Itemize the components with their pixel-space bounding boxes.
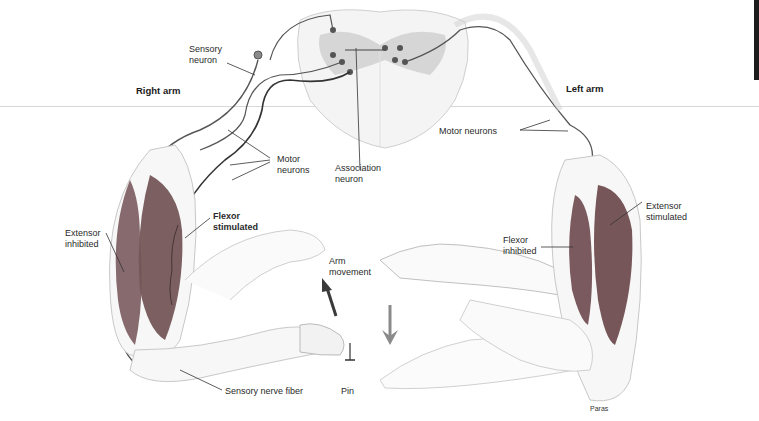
- label-line: Motor: [277, 154, 310, 165]
- flexor-inhibited-label: Flexor inhibited: [503, 235, 537, 257]
- motor-neurons-right-label: Motor neurons: [277, 154, 310, 176]
- flexor-stimulated-label: Flexor stimulated: [213, 211, 258, 233]
- right-arm-title: Right arm: [136, 85, 180, 96]
- label-line: movement: [329, 267, 371, 278]
- label-line: Flexor: [503, 235, 537, 246]
- label-line: Sensory: [189, 44, 222, 55]
- label-line: neuron: [189, 55, 222, 66]
- label-line: inhibited: [503, 246, 537, 257]
- label-line: stimulated: [646, 212, 687, 223]
- label-line: Association: [335, 163, 381, 174]
- label-line: Arm: [329, 256, 371, 267]
- pin-label: Pin: [341, 386, 354, 397]
- label-line: stimulated: [213, 222, 258, 233]
- association-neuron-label: Association neuron: [335, 163, 381, 185]
- crossed-extensor-reflex-diagram: Right arm Left arm Sensory neuron Motor …: [0, 0, 759, 421]
- motor-neurons-left-label: Motor neurons: [439, 126, 497, 137]
- extensor-stimulated-label: Extensor stimulated: [646, 201, 687, 223]
- label-line: neurons: [277, 165, 310, 176]
- sensory-nerve-fiber-label: Sensory nerve fiber: [225, 386, 303, 397]
- sensory-neuron-label: Sensory neuron: [189, 44, 222, 66]
- left-arm-title: Left arm: [566, 83, 603, 94]
- label-line: Flexor: [213, 211, 258, 222]
- extensor-inhibited-label: Extensor inhibited: [65, 228, 101, 250]
- label-line: inhibited: [65, 239, 101, 250]
- arm-movement-label: Arm movement: [329, 256, 371, 278]
- label-line: Extensor: [646, 201, 687, 212]
- illustrator-credit: Paras: [590, 403, 608, 414]
- label-line: Extensor: [65, 228, 101, 239]
- label-line: neuron: [335, 174, 381, 185]
